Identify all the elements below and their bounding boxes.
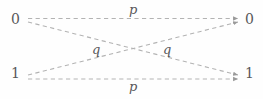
edge-label-p-bottom: p (129, 80, 137, 93)
edge-label-q-right: q (163, 43, 171, 56)
node-label-output-0: 0 (245, 12, 254, 26)
node-label-input-0: 0 (11, 12, 20, 26)
node-label-output-1: 1 (245, 66, 254, 80)
edge-label-q-left: q (92, 43, 100, 56)
edge-label-p-top: p (129, 3, 137, 16)
node-label-input-1: 1 (11, 66, 20, 80)
diagram-canvas: 0 1 0 1 p p q q (0, 0, 263, 99)
